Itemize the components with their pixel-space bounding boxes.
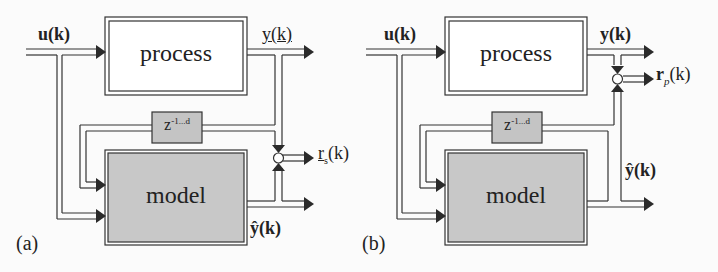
model-label-b: model [448, 182, 584, 209]
process-label-a: process [109, 40, 243, 67]
process-label-b: process [449, 40, 583, 67]
caption-b: (b) [362, 232, 385, 255]
residual-arg: (k) [670, 64, 691, 84]
output-label-a: y(k) [262, 24, 292, 45]
input-label-b: u(k) [384, 24, 416, 45]
residual-label-b: rp(k) [656, 64, 691, 87]
output-label-b: y(k) [600, 24, 631, 45]
residual-arg: (k) [328, 143, 349, 163]
model-label-a: model [108, 182, 244, 209]
caption-a: (a) [16, 232, 38, 255]
residual-label-a: rs(k) [318, 143, 349, 166]
input-label-a: u(k) [38, 24, 70, 45]
delay-sup: -1...d [511, 116, 530, 126]
delay-label-a: z-1...d [152, 116, 202, 134]
delay-label-b: z-1...d [492, 116, 542, 134]
delay-sup: -1...d [171, 116, 190, 126]
estimate-label-b: ŷ(k) [625, 160, 656, 181]
residual-symbol: r [656, 64, 664, 84]
estimate-label-a: ŷ(k) [250, 218, 281, 239]
